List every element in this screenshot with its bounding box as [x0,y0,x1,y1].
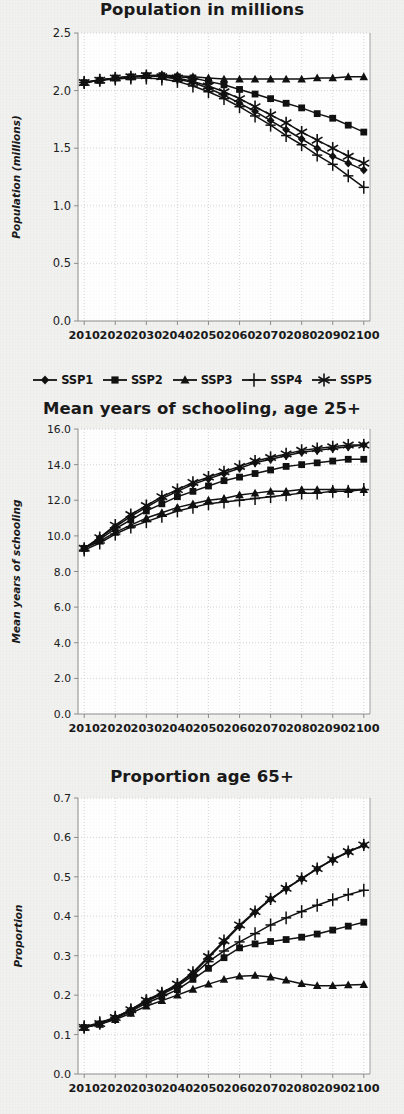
y-tick-label: 4.0 [54,637,71,650]
x-tick-label: 2050 [193,722,225,735]
x-tick-label: 2070 [255,722,287,735]
x-tick-label: 2020 [100,722,132,735]
y-axis-label: Proportion [12,904,24,967]
y-tick-label: 2.0 [53,83,71,97]
plus-marker-icon [241,373,267,387]
y-tick-label: 12.0 [47,494,71,507]
y-tick-label: 14.0 [47,459,71,472]
legend-item-ssp2[interactable]: SSP2 [102,373,163,387]
schooling-chart-svg: 0.02.04.06.08.010.012.014.016.0201020202… [0,417,404,757]
x-tick-label: 2090 [317,329,349,342]
y-tick-label: 0.3 [53,949,71,962]
y-tick-label: 0.5 [53,870,71,883]
x-tick-label: 2040 [162,329,194,342]
legend-item-ssp1[interactable]: SSP1 [32,373,93,387]
x-tick-label: 2060 [224,722,256,735]
legend-label: SSP3 [201,373,233,387]
legend-item-ssp5[interactable]: SSP5 [311,373,372,387]
x-tick-label: 2030 [131,329,163,342]
y-tick-label: 0.0 [53,1068,71,1081]
x-tick-label: 2020 [100,329,132,342]
x-tick-label: 2100 [348,329,380,342]
x-tick-label: 2030 [131,722,163,735]
x-tick-label: 2080 [286,1082,318,1095]
y-tick-label: 2.0 [54,672,71,685]
y-tick-label: 0.5 [53,256,71,270]
chart-panel-schooling: Mean years of schooling, age 25+ 0.02.04… [0,399,404,758]
proportion65-chart-svg: 0.00.10.20.30.40.50.60.72010202020302040… [0,786,404,1114]
x-tick-label: 2100 [348,1082,380,1095]
x-tick-label: 2070 [255,329,287,342]
legend-item-ssp4[interactable]: SSP4 [241,373,302,387]
x-tick-label: 2010 [68,722,100,735]
diamond-marker-icon [32,373,58,387]
x-tick-label: 2080 [286,722,318,735]
square-marker-icon [102,373,128,387]
chart-panel-proportion65: Proportion age 65+ 0.00.10.20.30.40.50.6… [0,767,404,1114]
x-tick-label: 2070 [255,1082,287,1095]
y-tick-label: 16.0 [47,423,71,436]
y-axis-label: Mean years of schooling [10,499,22,643]
chart-title-population: Population in millions [0,0,404,19]
y-tick-label: 0.7 [53,792,71,805]
x-tick-label: 2080 [286,329,318,342]
series-legend: SSP1SSP2SSP3SSP4SSP5 [0,373,404,387]
x-tick-label: 2010 [68,329,100,342]
y-tick-label: 0.0 [53,314,71,328]
x-tick-label: 2100 [348,722,380,735]
x-tick-label: 2050 [193,1082,225,1095]
x-tick-label: 2090 [317,722,349,735]
chart-title-proportion65: Proportion age 65+ [0,767,404,786]
y-tick-label: 0.4 [53,910,71,923]
x-tick-label: 2010 [68,1082,100,1095]
legend-label: SSP4 [270,373,302,387]
legend-label: SSP5 [340,373,372,387]
x-tick-label: 2060 [224,329,256,342]
plot-area-proportion65: 0.00.10.20.30.40.50.60.72010202020302040… [0,786,404,1114]
chart-title-schooling: Mean years of schooling, age 25+ [0,399,404,418]
y-tick-label: 0.6 [53,831,71,844]
y-tick-label: 2.5 [53,26,71,40]
y-tick-label: 1.0 [53,198,71,212]
legend-label: SSP2 [131,373,163,387]
triangle-marker-icon [172,373,198,387]
plot-area-schooling: 0.02.04.06.08.010.012.014.016.0201020202… [0,417,404,757]
asterisk-marker-icon [311,373,337,387]
y-tick-label: 0.2 [53,989,71,1002]
y-tick-label: 1.5 [53,141,71,155]
x-tick-label: 2090 [317,1082,349,1095]
y-axis-label: Population (millions) [10,115,22,238]
x-tick-label: 2020 [100,1082,132,1095]
population-chart-svg: 0.00.51.01.52.02.52010202020302040205020… [0,19,404,369]
x-tick-label: 2060 [224,1082,256,1095]
plot-area-population: 0.00.51.01.52.02.52010202020302040205020… [0,19,404,369]
chart-panel-population: Population in millions 0.00.51.01.52.02.… [0,0,404,387]
x-tick-label: 2050 [193,329,225,342]
x-tick-label: 2030 [131,1082,163,1095]
y-tick-label: 8.0 [54,566,71,579]
x-tick-label: 2040 [162,722,194,735]
y-tick-label: 6.0 [54,601,71,614]
y-tick-label: 0.0 [54,708,71,721]
x-tick-label: 2040 [162,1082,194,1095]
legend-label: SSP1 [61,373,93,387]
y-tick-label: 0.1 [53,1028,71,1041]
legend-item-ssp3[interactable]: SSP3 [172,373,233,387]
y-tick-label: 10.0 [47,530,71,543]
